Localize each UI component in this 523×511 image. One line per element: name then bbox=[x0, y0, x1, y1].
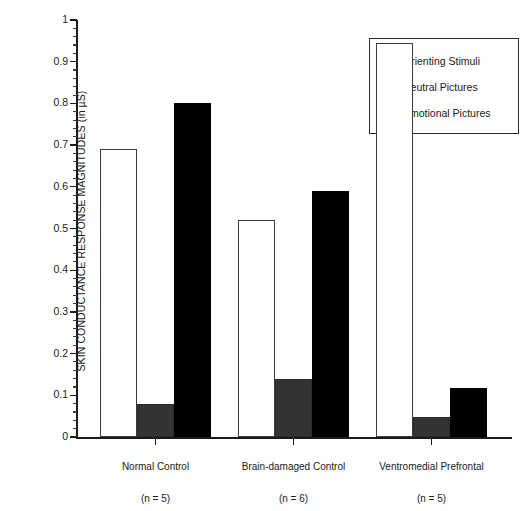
y-axis-tick-label: 0.7 bbox=[22, 138, 68, 150]
bar-emotional-group-3 bbox=[450, 388, 487, 437]
y-axis-tick-label: 0.9 bbox=[22, 55, 68, 67]
y-axis-tick-label: 0 bbox=[22, 430, 68, 442]
y-axis-tick-label: 0.3 bbox=[22, 305, 68, 317]
bar-emotional-group-1 bbox=[174, 103, 211, 437]
x-axis-category-label: Ventromedial Prefrontal bbox=[332, 461, 523, 472]
bar-orienting-group-3 bbox=[376, 43, 413, 437]
y-axis-tick-label: 0.1 bbox=[22, 388, 68, 400]
x-axis-category-sample-size: (n = 5) bbox=[332, 493, 523, 504]
x-axis-tick-group-2 bbox=[293, 438, 294, 445]
y-axis-tick-label: 0.8 bbox=[22, 96, 68, 108]
bar-neutral-group-2 bbox=[275, 379, 312, 437]
bar-neutral-group-1 bbox=[137, 404, 174, 437]
legend-label: Emotional Pictures bbox=[403, 107, 491, 119]
bar-orienting-group-2 bbox=[238, 220, 275, 437]
skin-conductance-bar-chart: SKIN CONDUCTANCE RESPONSE MAGNITUDES (in… bbox=[0, 0, 523, 511]
y-axis-tick-label: 0.2 bbox=[22, 347, 68, 359]
legend-label: Neutral Pictures bbox=[403, 81, 478, 93]
legend-label: Orienting Stimuli bbox=[403, 55, 480, 67]
x-axis-tick-group-3 bbox=[431, 438, 432, 445]
y-axis-tick-label: 0.4 bbox=[22, 263, 68, 275]
y-axis-tick-label: 0.6 bbox=[22, 180, 68, 192]
y-axis-tick-label: 0.5 bbox=[22, 222, 68, 234]
bar-emotional-group-2 bbox=[312, 191, 349, 437]
bar-orienting-group-1 bbox=[100, 149, 137, 437]
bar-neutral-group-3 bbox=[413, 417, 450, 437]
y-axis-tick-label: 1 bbox=[22, 13, 68, 25]
x-axis-tick-group-1 bbox=[155, 438, 156, 445]
